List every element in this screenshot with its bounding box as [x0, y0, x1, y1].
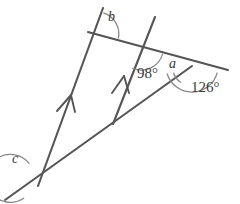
- top-transversal-line: [88, 32, 228, 70]
- angle-label-98: 98°: [137, 66, 158, 81]
- angle-label-a: a: [169, 57, 176, 71]
- angle-label-c: c: [12, 152, 18, 166]
- bottom-transversal-line: [5, 66, 192, 200]
- angle-label-b: b: [108, 10, 115, 24]
- geometry-figure: [0, 0, 240, 204]
- angle-label-126: 126°: [191, 80, 220, 95]
